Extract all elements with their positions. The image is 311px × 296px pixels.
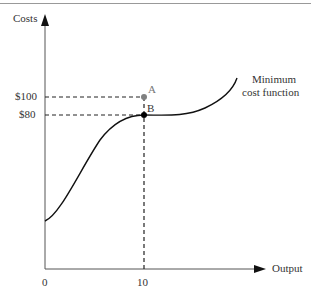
- y-tick-100: $100: [15, 90, 37, 102]
- curve-label-line2: cost function: [242, 86, 299, 98]
- y-tick-80: $80: [19, 108, 36, 120]
- x-tick-0: 0: [42, 276, 48, 288]
- x-axis-arrow-icon: [254, 265, 266, 273]
- x-axis-label: Output: [272, 262, 303, 274]
- cost-chart: [0, 0, 311, 296]
- curve-label-line1: Minimum: [239, 73, 309, 85]
- point-a-label: A: [148, 83, 156, 95]
- minimum-cost-curve: [45, 78, 237, 221]
- point-b-label: B: [147, 102, 154, 114]
- y-axis-arrow-icon: [41, 14, 49, 26]
- point-a: [141, 94, 147, 100]
- y-axis-label: Costs: [13, 12, 37, 24]
- x-tick-10: 10: [137, 276, 148, 288]
